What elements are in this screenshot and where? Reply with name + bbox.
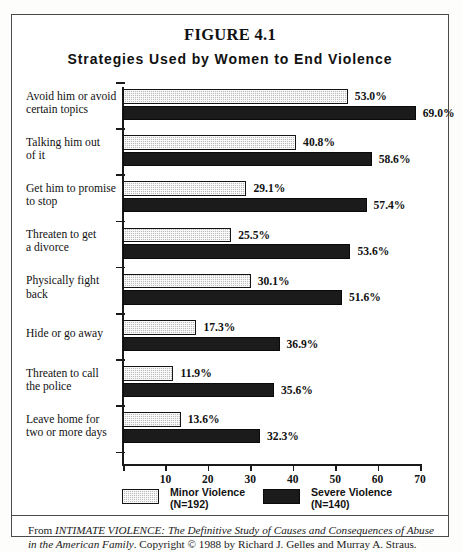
category-label-line: two or more days (26, 426, 118, 439)
bar-severe-violence (123, 429, 260, 444)
bar-severe-violence (123, 383, 274, 398)
bar-severe-violence (123, 337, 280, 352)
figure-number-title: FIGURE 4.1 (12, 25, 448, 45)
category-label-line: Hide or go away (26, 327, 118, 340)
bar-severe-violence (123, 244, 350, 259)
category-label: Talking him outof it (26, 136, 118, 162)
x-axis-tick-label: 60 (363, 473, 393, 485)
category-label: Threaten to callthe police (26, 367, 118, 393)
y-axis-tick (116, 174, 125, 176)
legend-series-n: (N=140) (311, 498, 392, 510)
bar-minor-violence (123, 412, 181, 427)
bar-severe-violence (123, 152, 372, 167)
bar-minor-violence (123, 89, 348, 104)
figure-frame: FIGURE 4.1 Strategies Used by Women to E… (11, 14, 449, 537)
x-axis-tick-label: 30 (235, 473, 265, 485)
category-label-line: Get him to promise (26, 182, 118, 195)
bar-value-label: 11.9% (180, 367, 211, 380)
category-label: Threaten to geta divorce (26, 228, 118, 254)
source-note-prefix: From (28, 524, 55, 536)
x-axis-tick (165, 464, 167, 471)
bar-minor-violence (123, 366, 173, 381)
category-label-line: back (26, 288, 118, 301)
bar-value-label: 25.5% (238, 229, 270, 242)
figure-root: FIGURE 4.1 Strategies Used by Women to E… (0, 0, 463, 552)
bar-minor-violence (123, 135, 296, 150)
x-axis-tick (123, 464, 125, 471)
category-label: Leave home fortwo or more days (26, 413, 118, 439)
bar-value-label: 13.6% (188, 413, 220, 426)
x-axis-tick (378, 464, 380, 471)
category-label-line: Avoid him or avoid (26, 90, 118, 103)
category-label: Get him to promiseto stop (26, 182, 118, 208)
x-axis-tick-label: 10 (150, 473, 180, 485)
note-divider (12, 515, 448, 516)
bar-value-label: 29.1% (253, 182, 285, 195)
category-label-line: of it (26, 149, 118, 162)
category-label-line: Threaten to call (26, 367, 118, 380)
bar-minor-violence (123, 228, 231, 243)
legend-swatch-minor (122, 489, 159, 504)
x-axis-tick (420, 464, 422, 471)
x-axis-tick (208, 464, 210, 471)
legend-label: Minor Violence(N=192) (170, 486, 245, 511)
bar-value-label: 40.8% (303, 136, 335, 149)
legend-series-name: Severe Violence (311, 486, 392, 498)
figure-subtitle: Strategies Used by Women to End Violence (12, 51, 448, 67)
y-axis-tick (116, 128, 125, 130)
bar-value-label: 17.3% (203, 321, 235, 334)
category-label: Physically fightback (26, 274, 118, 300)
x-axis-tick (335, 464, 337, 471)
bar-minor-violence (123, 181, 246, 196)
bar-value-label: 53.6% (357, 245, 389, 258)
y-axis-tick (116, 405, 125, 407)
legend-series-name: Minor Violence (170, 486, 245, 498)
category-label-line: a divorce (26, 241, 118, 254)
source-note: From INTIMATE VIOLENCE: The Definitive S… (28, 523, 434, 552)
y-axis-tick (116, 267, 125, 269)
plot-area: 10203040506070Avoid him or avoidcertain … (12, 77, 448, 477)
category-label-line: Threaten to get (26, 228, 118, 241)
bar-severe-violence (123, 106, 416, 121)
bar-value-label: 35.6% (281, 384, 313, 397)
category-label-line: to stop (26, 195, 118, 208)
bar-value-label: 51.6% (349, 291, 381, 304)
category-label-line: Physically fight (26, 274, 118, 287)
bar-value-label: 69.0% (423, 107, 455, 120)
bar-severe-violence (123, 198, 367, 213)
bar-minor-violence (123, 320, 196, 335)
y-axis-tick (116, 313, 125, 315)
legend-swatch-severe (263, 489, 300, 504)
legend-label: Severe Violence(N=140) (311, 486, 392, 511)
category-label-line: the police (26, 380, 118, 393)
legend-series-n: (N=192) (170, 498, 245, 510)
bar-minor-violence (123, 274, 251, 289)
bar-value-label: 53.0% (355, 90, 387, 103)
x-axis-tick-label: 50 (320, 473, 350, 485)
x-axis-tick-label: 20 (193, 473, 223, 485)
category-label-line: Talking him out (26, 136, 118, 149)
category-label: Avoid him or avoidcertain topics (26, 90, 118, 116)
category-label-line: certain topics (26, 103, 118, 116)
source-note-copyright: . Copyright © 1988 by Richard J. Gelles … (134, 538, 417, 550)
bar-value-label: 58.6% (379, 153, 411, 166)
bar-value-label: 36.9% (287, 338, 319, 351)
x-axis-tick-label: 40 (278, 473, 308, 485)
y-axis-tick (116, 359, 125, 361)
x-axis-tick-label: 70 (405, 473, 435, 485)
y-axis-tick (116, 82, 125, 84)
bar-severe-violence (123, 290, 342, 305)
bar-value-label: 30.1% (258, 275, 290, 288)
category-label-line: Leave home for (26, 413, 118, 426)
x-axis-tick (293, 464, 295, 471)
y-axis-tick (116, 221, 125, 223)
y-axis-tick (116, 452, 125, 454)
x-axis-tick (250, 464, 252, 471)
bar-value-label: 32.3% (267, 430, 299, 443)
bar-value-label: 57.4% (374, 199, 406, 212)
category-label: Hide or go away (26, 327, 118, 340)
